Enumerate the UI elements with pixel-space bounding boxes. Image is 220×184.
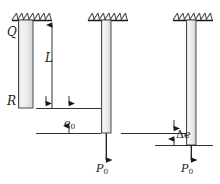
label-Q: Q (7, 26, 17, 38)
label-delta-e: Δe (176, 129, 190, 140)
delta-symbol: Δ (176, 128, 184, 141)
label-R: R (7, 95, 16, 107)
bar-unloaded (19, 20, 34, 108)
figure-canvas: Q R L e0 Δe P0 P0 (0, 0, 220, 184)
label-P0-left-subscript: 0 (103, 167, 108, 176)
fixed-support-left (12, 13, 52, 21)
fixed-support-right (173, 13, 213, 21)
bar-loaded-p0-delta (187, 20, 197, 145)
label-P0-right-subscript: 0 (188, 167, 193, 176)
fixed-support-middle (88, 13, 128, 21)
label-e0: e0 (64, 118, 75, 130)
dimension-delta-e (121, 120, 213, 146)
bar-loaded-p0 (102, 20, 112, 133)
diagram-svg (0, 0, 220, 184)
label-P0-right: P0 (181, 163, 193, 175)
label-P0-left: P0 (96, 163, 108, 175)
label-length-L: L (45, 52, 53, 64)
label-e0-subscript: 0 (71, 122, 76, 131)
label-delta-e-base: e (184, 128, 191, 141)
